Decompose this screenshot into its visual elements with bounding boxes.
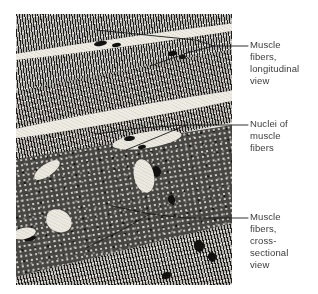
- skeletal-muscle-histology-figure: Muscle fibers, longitudinal view Nuclei …: [0, 0, 318, 294]
- label-muscle-fibers-longitudinal: Muscle fibers, longitudinal view: [250, 39, 299, 87]
- skeletal-muscle-micrograph: [16, 14, 232, 285]
- micrograph-tissue-layers: [16, 14, 232, 285]
- label-nuclei-of-muscle-fibers: Nuclei of muscle fibers: [250, 118, 288, 154]
- label-muscle-fibers-cross-sectional: Muscle fibers, cross- sectional view: [250, 211, 288, 271]
